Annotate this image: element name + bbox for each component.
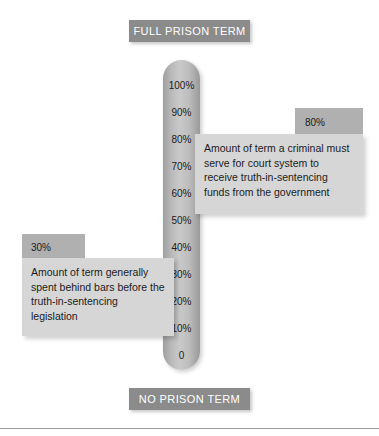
callout-upper-value: 80% <box>295 108 363 136</box>
gauge-tick: 70% <box>171 153 191 180</box>
bottom-divider <box>0 428 379 429</box>
gauge-tick: 0 <box>179 343 185 370</box>
gauge-tick: 100% <box>169 72 195 99</box>
callout-lower-text: Amount of term generally spent behind ba… <box>31 265 165 323</box>
gauge-tick: 80% <box>171 126 191 153</box>
banner-bottom-label: NO PRISON TERM <box>139 393 240 405</box>
gauge-tick: 90% <box>171 99 191 126</box>
banner-full-prison-term: FULL PRISON TERM <box>129 20 250 42</box>
infographic-figure: FULL PRISON TERM 100% 90% 80% 70% 60% 50… <box>0 0 379 436</box>
banner-top-label: FULL PRISON TERM <box>133 25 245 37</box>
banner-no-prison-term: NO PRISON TERM <box>129 388 250 410</box>
gauge-tick: 60% <box>171 180 191 207</box>
gauge-tick: 50% <box>171 207 191 234</box>
callout-upper-body: Amount of term a criminal must serve for… <box>195 134 363 214</box>
callout-upper: 80% Amount of term a criminal must serve… <box>195 108 371 214</box>
callout-lower: 30% Amount of term generally spent behin… <box>22 234 182 338</box>
callout-lower-value: 30% <box>22 234 85 260</box>
callout-upper-text: Amount of term a criminal must serve for… <box>204 141 354 199</box>
callout-lower-body: Amount of term generally spent behind ba… <box>22 258 174 336</box>
